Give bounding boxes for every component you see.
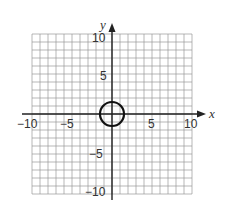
x-tick-label: −10 bbox=[17, 117, 38, 131]
x-tick-label: 10 bbox=[184, 117, 198, 131]
y-tick-label: −5 bbox=[89, 147, 103, 161]
y-axis-label: y bbox=[98, 17, 106, 32]
y-tick-label: 10 bbox=[92, 31, 106, 45]
x-axis-label: x bbox=[208, 106, 215, 121]
x-tick-label: −5 bbox=[60, 117, 74, 131]
y-axis-arrow-icon bbox=[109, 23, 116, 32]
y-tick-label: −10 bbox=[85, 185, 106, 199]
y-tick-label: 5 bbox=[100, 69, 107, 83]
x-tick-label: 5 bbox=[148, 117, 155, 131]
coordinate-plane: x y −10 −5 5 10 10 5 −5 −10 bbox=[0, 0, 228, 219]
x-axis-arrow-icon bbox=[197, 111, 206, 118]
